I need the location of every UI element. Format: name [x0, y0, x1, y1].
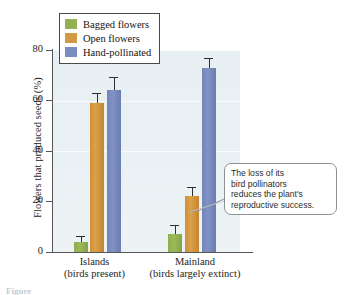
y-tick-20: [46, 201, 53, 202]
y-tick-label-0: 0: [3, 246, 43, 257]
legend-swatch-hand-icon: [65, 47, 77, 57]
errorcap-mainland-bagged: [170, 225, 179, 226]
legend-swatch-bagged-icon: [65, 19, 77, 29]
y-tick-0: [46, 252, 53, 253]
bar-group-mainland: [147, 50, 227, 252]
x-category-mainland-sub: (birds largely extinct): [135, 268, 255, 280]
y-tick-label-20: 20: [3, 195, 43, 206]
x-category-islands-sub: (birds present): [47, 268, 142, 280]
bar-islands-open: [90, 103, 104, 252]
bar-group-islands: [53, 50, 133, 252]
x-category-mainland-name: Mainland: [175, 256, 215, 267]
callout-line-1: The loss of its: [231, 168, 331, 179]
bar-islands-bagged: [74, 242, 88, 252]
legend-label-hand: Hand-pollinated: [83, 47, 151, 58]
callout-pointer-line: [190, 196, 226, 214]
x-category-islands: Islands (birds present): [47, 256, 142, 280]
callout-annotation: The loss of its bird pollinators reduces…: [224, 163, 337, 215]
bar-mainland-hand: [202, 68, 216, 252]
caption-fragment: Figure: [6, 286, 146, 295]
errorcap-mainland-hand: [204, 58, 213, 59]
errorcap-mainland-open: [187, 187, 196, 188]
callout-line-4: reproductive success.: [231, 200, 331, 211]
legend-label-bagged: Bagged flowers: [83, 19, 149, 30]
callout-line-2: bird pollinators: [231, 179, 331, 190]
legend-item-hand: Hand-pollinated: [65, 45, 151, 59]
x-category-mainland: Mainland (birds largely extinct): [135, 256, 255, 280]
legend-item-bagged: Bagged flowers: [65, 17, 151, 31]
errorcap-islands-open: [92, 93, 101, 94]
errorbar-islands-bagged: [81, 237, 82, 242]
errorbar-mainland-bagged: [175, 226, 176, 234]
errorbar-islands-open: [97, 94, 98, 103]
y-tick-40: [46, 151, 53, 152]
errorbar-islands-hand: [114, 78, 115, 90]
errorcap-islands-bagged: [76, 236, 85, 237]
callout-line-3: reduces the plant's: [231, 189, 331, 200]
x-axis-line: [52, 252, 253, 253]
errorcap-islands-hand: [109, 77, 118, 78]
legend-item-open: Open flowers: [65, 31, 151, 45]
legend-label-open: Open flowers: [83, 33, 140, 44]
errorbar-mainland-hand: [209, 59, 210, 68]
legend: Bagged flowers Open flowers Hand-pollina…: [59, 13, 160, 64]
figure-bar-chart: Flowers that produced seeds (%) 80 60 40…: [0, 0, 347, 295]
bar-islands-hand: [107, 90, 121, 252]
y-tick-label-40: 40: [3, 145, 43, 156]
y-tick-60: [46, 100, 53, 101]
y-tick-80: [46, 50, 53, 51]
y-tick-label-80: 80: [3, 44, 43, 55]
bar-mainland-bagged: [168, 234, 182, 252]
x-category-islands-name: Islands: [80, 256, 110, 267]
legend-swatch-open-icon: [65, 33, 77, 43]
y-tick-label-60: 60: [3, 94, 43, 105]
errorbar-mainland-open: [192, 188, 193, 196]
